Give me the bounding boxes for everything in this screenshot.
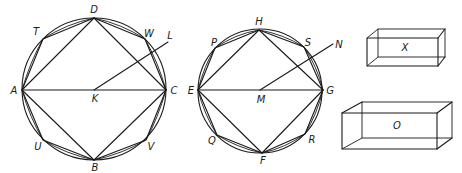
label-g: G bbox=[326, 85, 334, 96]
label-t: T bbox=[33, 26, 40, 37]
line-mn bbox=[260, 44, 333, 90]
label-b: B bbox=[92, 162, 99, 173]
label-l: L bbox=[167, 30, 173, 41]
label-o: O bbox=[393, 120, 401, 131]
label-w: W bbox=[144, 28, 155, 39]
label-a: A bbox=[10, 85, 18, 96]
solid-x-back bbox=[378, 29, 445, 57]
label-e: E bbox=[188, 85, 195, 96]
label-h: H bbox=[255, 16, 263, 27]
solid-o: O bbox=[342, 102, 452, 149]
label-p: P bbox=[211, 37, 218, 48]
solid-x-edge bbox=[367, 57, 378, 66]
solid-o-edge bbox=[437, 138, 452, 149]
solid-o-edge bbox=[437, 102, 452, 113]
line-kl bbox=[94, 42, 168, 90]
solid-x-edge bbox=[438, 57, 445, 66]
label-m: M bbox=[257, 94, 266, 105]
solid-x: X bbox=[367, 29, 445, 66]
label-v: V bbox=[148, 141, 156, 152]
circle-k-group: D T W L A C K U V B bbox=[10, 4, 178, 173]
octagon-k bbox=[22, 18, 166, 160]
solid-x-edge bbox=[367, 29, 378, 38]
label-q: Q bbox=[208, 135, 216, 146]
label-n: N bbox=[335, 39, 343, 50]
solid-x-edge bbox=[438, 29, 445, 38]
circle-m-group: H P S N E G M Q R F bbox=[188, 16, 343, 166]
solid-o-front bbox=[342, 113, 437, 149]
label-s: S bbox=[305, 37, 312, 48]
label-x: X bbox=[401, 42, 410, 53]
geometry-figure: D T W L A C K U V B H P S N E G M Q R F bbox=[0, 0, 462, 173]
label-f: F bbox=[260, 155, 266, 166]
label-c: C bbox=[171, 85, 178, 96]
label-d: D bbox=[90, 4, 98, 15]
solid-o-edge bbox=[342, 102, 362, 113]
solid-o-back bbox=[362, 102, 452, 138]
label-k: K bbox=[92, 93, 100, 104]
solid-o-edge bbox=[342, 138, 362, 149]
label-u: U bbox=[34, 141, 42, 152]
label-r: R bbox=[309, 134, 316, 145]
